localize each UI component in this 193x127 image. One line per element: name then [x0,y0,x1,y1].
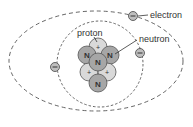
atom-diagram: + N N + + N N electron proton neutron [0,0,193,127]
neutron-label: neutron [139,34,170,44]
neutron-symbol: N [107,51,113,60]
electron-left [51,63,60,72]
electron-label: electron [150,10,182,20]
neutron-symbol: N [95,80,101,89]
proton-symbol: + [105,69,109,76]
electron-top [129,12,138,21]
electron-leader [138,15,148,16]
neutron-symbol: N [84,51,90,60]
neutron-leader [115,40,137,54]
proton-symbol: + [87,69,91,76]
proton-label: proton [77,28,103,38]
electron-right [136,49,145,58]
neutron-symbol: N [95,58,101,67]
proton-symbol: + [96,44,100,51]
